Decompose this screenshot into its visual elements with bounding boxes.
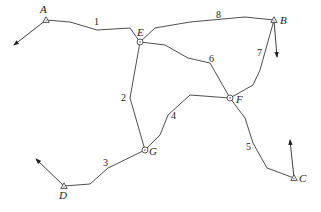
arrow-icon-A	[14, 20, 46, 45]
edge-label-7: 7	[257, 47, 262, 58]
edge-label-3: 3	[103, 157, 108, 168]
edge-label-6: 6	[209, 53, 214, 64]
point-dot-D	[63, 186, 64, 187]
node-label-E: E	[136, 26, 144, 38]
triangle-icon-C	[291, 175, 297, 181]
point-dot-E	[139, 41, 140, 42]
node-label-D: D	[58, 189, 67, 201]
edge-5	[230, 98, 294, 178]
node-label-A: A	[39, 3, 47, 15]
point-dot-F	[229, 97, 230, 98]
network-diagram: 12345678ABCDEFG	[0, 0, 321, 212]
arrow-icon-D	[36, 159, 64, 186]
edge-7	[230, 20, 274, 98]
labels: 12345678ABCDEFG	[39, 3, 307, 201]
edge-label-5: 5	[246, 141, 251, 152]
point-dot-A	[45, 20, 46, 21]
edge-label-2: 2	[121, 92, 126, 103]
node-label-C: C	[299, 172, 307, 184]
edge-4	[145, 95, 230, 150]
node-label-F: F	[235, 93, 243, 105]
edge-label-1: 1	[94, 16, 99, 27]
edge-label-4: 4	[171, 110, 176, 121]
edge-3	[64, 150, 145, 186]
edge-2	[130, 42, 145, 150]
edges	[46, 17, 294, 186]
triangle-icon-A	[43, 17, 49, 23]
edge-label-8: 8	[216, 9, 221, 20]
edge-6	[140, 42, 230, 98]
arrow-icon-C	[290, 140, 294, 178]
node-label-B: B	[280, 14, 287, 26]
edge-1	[46, 20, 140, 42]
nodes	[43, 17, 297, 189]
point-dot-B	[273, 20, 274, 21]
point-dot-C	[293, 178, 294, 179]
point-dot-G	[144, 149, 145, 150]
arrow-icon-B	[274, 20, 277, 57]
node-label-G: G	[149, 145, 157, 157]
edge-8	[140, 17, 274, 42]
orientation-arrows	[14, 20, 294, 186]
